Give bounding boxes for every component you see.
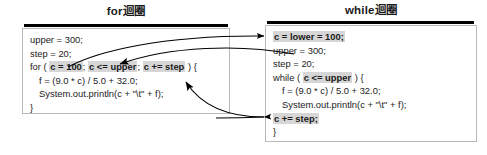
while-code-line: } [273, 125, 406, 139]
while-highlighted-segment: c += step; [273, 113, 319, 124]
for-code-line: System.out.println(c + "\t" + f); [30, 87, 197, 101]
while-highlighted-segment: c <= upper [303, 72, 352, 83]
for-code-segment: System.out.println(c + "\t" + f); [39, 88, 163, 99]
for-highlighted-segment: c += step [143, 61, 186, 72]
while-code-line: c += step; [273, 112, 406, 126]
for-code-line: } [30, 101, 197, 115]
while-highlighted-segment: c = lower = 100; [273, 31, 345, 42]
while-code-line: upper = 300; [273, 44, 406, 58]
while-code-line: while ( c <= upper ) { [273, 71, 406, 85]
for-code-block: upper = 300;step = 20;for ( c = 100; c <… [30, 33, 197, 115]
for-code-segment: step = 20; [30, 48, 71, 59]
for-loop-title: for迴圈 [22, 2, 230, 18]
for-code-line: upper = 300; [30, 33, 197, 47]
while-loop-panel: while迴圈 c = lower = 100;upper = 300;step… [265, 0, 477, 142]
while-code-segment: f = (9.0 * c) / 5.0 + 32.0; [282, 85, 381, 96]
for-code-segment: ) { [185, 61, 196, 72]
while-title-underline [267, 21, 474, 24]
while-code-segment: System.out.println(c + "\t" + f); [282, 99, 406, 110]
for-code-segment: upper = 300; [30, 34, 83, 45]
for-code-segment: f = (9.0 * c) / 5.0 + 32.0; [39, 75, 138, 86]
while-code-line: step = 20; [273, 57, 406, 71]
while-code-segment: } [273, 126, 276, 137]
while-code-box: c = lower = 100;upper = 300;step = 20;wh… [265, 25, 477, 142]
for-title-underline [24, 24, 228, 27]
while-code-segment: step = 20; [273, 58, 314, 69]
for-highlighted-segment: c = 100 [49, 61, 83, 72]
while-code-segment: upper = 300; [273, 45, 326, 56]
for-highlighted-segment: c <= upper [88, 61, 137, 72]
for-code-line: f = (9.0 * c) / 5.0 + 32.0; [30, 74, 197, 88]
for-code-line: for ( c = 100; c <= upper; c += step ) { [30, 60, 197, 74]
while-loop-title: while迴圈 [265, 1, 477, 17]
for-loop-panel: for迴圈 upper = 300;step = 20;for ( c = 10… [22, 2, 230, 114]
while-code-segment: ) { [352, 72, 363, 83]
for-code-segment: ; [137, 61, 142, 72]
diagram-canvas: for迴圈 upper = 300;step = 20;for ( c = 10… [0, 0, 487, 155]
while-code-block: c = lower = 100;upper = 300;step = 20;wh… [273, 30, 406, 139]
update-connector-tail [216, 117, 264, 118]
while-code-segment: while ( [273, 72, 303, 83]
for-code-line: step = 20; [30, 47, 197, 61]
while-code-line: f = (9.0 * c) / 5.0 + 32.0; [273, 84, 406, 98]
while-code-line: System.out.println(c + "\t" + f); [273, 98, 406, 112]
for-code-segment: } [30, 102, 33, 113]
for-code-box: upper = 300;step = 20;for ( c = 100; c <… [22, 28, 230, 114]
for-code-segment: for ( [30, 61, 49, 72]
while-code-line: c = lower = 100; [273, 30, 406, 44]
